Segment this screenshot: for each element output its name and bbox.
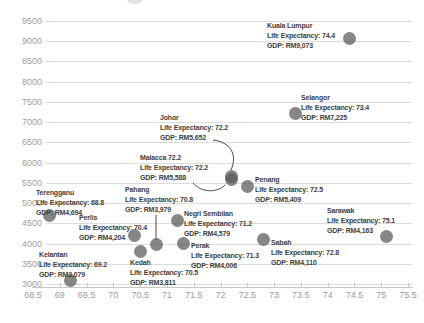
point-label-gdp: GDP: RM3,811 — [130, 278, 198, 288]
point-label-life-expectancy: Life Expectancy: 71.2 — [184, 219, 252, 229]
point-label-gdp: GDP: RM3,079 — [39, 270, 107, 280]
point-label-kelantan: KelantanLife Expectancy: 69.2GDP: RM3,07… — [39, 250, 107, 280]
point-label-malacca: Malacca 72.2Life Expectancy: 72.2GDP: RM… — [140, 153, 208, 183]
point-label-title: Kelantan — [39, 250, 107, 260]
point-label-life-expectancy: Life Expectancy: 70.8 — [125, 195, 193, 205]
point-label-sarawak: SarawakLife Expectancy: 75.1GDP: RM4,163 — [327, 206, 395, 236]
point-label-gdp: GDP: RM5,652 — [160, 133, 228, 143]
point-label-life-expectancy: Life Expectancy: 70.5 — [130, 268, 198, 278]
point-label-pahang: PahangLife Expectancy: 70.8GDP: RM3,979 — [125, 185, 193, 215]
point-label-negri-sembilan: Negri SembilanLife Expectancy: 71.2GDP: … — [184, 209, 252, 239]
point-label-life-expectancy: Life Expectancy: 69.2 — [39, 260, 107, 270]
point-label-title: Kedah — [130, 258, 198, 268]
point-label-life-expectancy: Life Expectancy: 72.5 — [255, 185, 323, 195]
point-label-sabah: SabahLife Expectancy: 72.8GDP: RM4,110 — [271, 238, 339, 268]
point-label-title: Selangor — [301, 93, 369, 103]
point-label-perak: PerakLife Expectancy: 71.3GDP: RM4,006 — [191, 241, 259, 271]
point-label-life-expectancy: Life Expectancy: 68.8 — [36, 198, 104, 208]
point-label-title: Sabah — [271, 238, 339, 248]
point-label-selangor: SelangorLife Expectancy: 73.4GDP: RM7,22… — [301, 93, 369, 123]
point-label-gdp: GDP: RM9,073 — [267, 41, 335, 51]
point-label-title: Sarawak — [327, 206, 395, 216]
point-label-gdp: GDP: RM4,579 — [184, 229, 252, 239]
point-label-life-expectancy: Life Expectancy: 70.4 — [79, 223, 147, 233]
point-label-gdp: GDP: RM4,204 — [79, 233, 147, 243]
point-label-title: Kuala Lumpur — [267, 21, 335, 31]
point-label-kuala-lumpur: Kuala LumpurLife Expectancy: 74.4GDP: RM… — [267, 21, 335, 51]
point-label-life-expectancy: Life Expectancy: 72.2 — [140, 163, 208, 173]
point-label-title: Johor — [160, 113, 228, 123]
point-label-life-expectancy: Life Expectancy: 74.4 — [267, 31, 335, 41]
point-label-johor: JohorLife Expectancy: 72.2GDP: RM5,652 — [160, 113, 228, 143]
point-label-life-expectancy: Life Expectancy: 72.2 — [160, 123, 228, 133]
point-label-gdp: GDP: RM4,163 — [327, 226, 395, 236]
point-label-gdp: GDP: RM4,006 — [191, 261, 259, 271]
annotations-layer: Kuala LumpurLife Expectancy: 74.4GDP: RM… — [0, 0, 424, 323]
point-label-title: Pahang — [125, 185, 193, 195]
point-label-life-expectancy: Life Expectancy: 75.1 — [327, 216, 395, 226]
point-label-title: Malacca 72.2 — [140, 153, 208, 163]
point-label-life-expectancy: Life Expectancy: 71.3 — [191, 251, 259, 261]
point-label-title: Penang — [255, 175, 323, 185]
point-label-kedah: KedahLife Expectancy: 70.5GDP: RM3,811 — [130, 258, 198, 288]
point-label-penang: PenangLife Expectancy: 72.5GDP: RM5,409 — [255, 175, 323, 205]
point-label-gdp: GDP: RM3,979 — [125, 205, 193, 215]
scatter-chart: 3000350040004500500055006000650070007500… — [0, 0, 424, 323]
point-label-life-expectancy: Life Expectancy: 72.8 — [271, 248, 339, 258]
point-label-title: Perak — [191, 241, 259, 251]
point-label-gdp: GDP: RM5,588 — [140, 173, 208, 183]
point-label-gdp: GDP: RM5,409 — [255, 195, 323, 205]
point-label-gdp: GDP: RM4,110 — [271, 258, 339, 268]
point-label-title: Terengganu — [36, 188, 104, 198]
point-label-life-expectancy: Life Expectancy: 73.4 — [301, 103, 369, 113]
point-label-gdp: GDP: RM7,225 — [301, 113, 369, 123]
point-label-perlis: PerlisLife Expectancy: 70.4GDP: RM4,204 — [79, 213, 147, 243]
point-label-title: Negri Sembilan — [184, 209, 252, 219]
